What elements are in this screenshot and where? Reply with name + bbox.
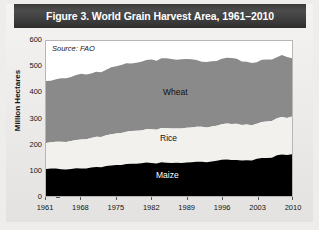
series-label-rice: Rice [160, 133, 177, 143]
x-tick-mark [187, 197, 188, 200]
y-tick-label: 100 [18, 166, 42, 175]
figure-title-bar: Figure 3. World Grain Harvest Area, 1961… [14, 4, 306, 28]
figure-container: Figure 3. World Grain Harvest Area, 1961… [0, 0, 319, 230]
source-note: Source: FAO [52, 44, 95, 53]
y-tick-label: 600 [18, 35, 42, 44]
x-tick-mark [116, 197, 117, 200]
x-tick-label: 1982 [136, 203, 166, 212]
x-tick-mark [222, 197, 223, 200]
y-axis-label: Million Hectares [13, 65, 22, 137]
x-tick-label: 1975 [101, 203, 131, 212]
x-tick-mark [45, 197, 46, 200]
x-tick-label: 2010 [278, 203, 308, 212]
x-tick-mark [151, 197, 152, 200]
x-tick-mark [292, 197, 293, 200]
y-tick-label: 300 [18, 114, 42, 123]
x-tick-mark [258, 197, 259, 200]
series-label-maize: Maize [156, 170, 179, 180]
y-tick-label: 400 [18, 87, 42, 96]
series-label-wheat: Wheat [163, 87, 188, 97]
y-tick-label: 0 [18, 192, 42, 201]
y-tick-label: 500 [18, 61, 42, 70]
x-tick-label: 2003 [243, 203, 273, 212]
y-tick-label: 200 [18, 140, 42, 149]
x-tick-mark [80, 197, 81, 200]
page-title: Figure 3. World Grain Harvest Area, 1961… [46, 10, 274, 22]
x-axis-tick-labels: 19611968197519821989199620032010 [45, 197, 293, 221]
x-tick-label: 1961 [30, 203, 60, 212]
x-tick-label: 1968 [65, 203, 95, 212]
x-tick-label: 1989 [172, 203, 202, 212]
x-tick-label: 1996 [207, 203, 237, 212]
